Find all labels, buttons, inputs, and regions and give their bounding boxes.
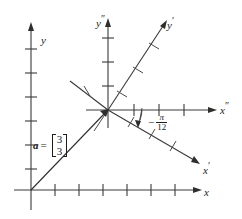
matrix-cell-0: 3 — [57, 134, 63, 146]
axis-label-x-prime: x′ — [203, 161, 210, 176]
vector-a-label: a = 3 3 — [33, 134, 71, 157]
axis-x-prime-arrowhead — [191, 156, 200, 164]
axis-y-dprime-arrowhead — [105, 18, 111, 27]
axis-label-x: x — [204, 183, 209, 198]
vector-a-name: a — [33, 140, 39, 151]
angle-fraction: π 12 — [156, 113, 167, 132]
angle-denominator: 12 — [156, 123, 167, 132]
axis-y-original — [25, 22, 37, 210]
axis-label-x-prime-mark: ′ — [208, 160, 210, 171]
angle-numerator: π — [157, 113, 166, 122]
axis-x-arrowhead — [193, 187, 202, 193]
axis-label-y: y — [41, 31, 46, 46]
axis-x-prime — [70, 81, 200, 164]
axis-y-prime-arrowhead — [160, 20, 167, 29]
axis-label-x-dprime-mark: ″ — [225, 100, 229, 111]
axis-label-y-prime: y′ — [167, 16, 174, 31]
axis-label-y-dprime-mark: ″ — [101, 13, 105, 24]
axis-label-y-prime-mark: ′ — [172, 15, 174, 26]
angle-label: − π 12 — [148, 113, 167, 132]
axis-label-x-double-prime: x″ — [220, 101, 229, 116]
axis-x-prime-negative — [70, 81, 108, 110]
vector-a-matrix: 3 3 — [48, 134, 72, 157]
axis-x-dprime-arrowhead — [208, 107, 217, 113]
axis-label-x-text: x — [204, 186, 209, 198]
matrix-cell-1: 3 — [57, 146, 63, 158]
matrix-bracket-right — [63, 134, 67, 157]
angle-minus-sign: − — [148, 117, 154, 128]
matrix-column: 3 3 — [56, 134, 64, 157]
axis-x-original — [14, 184, 202, 196]
axis-label-y-double-prime: y″ — [96, 14, 105, 29]
vector-a-equals: = — [41, 140, 47, 151]
figure-root: y x y″ x″ y′ x′ a = 3 3 − π 12 — [0, 0, 242, 219]
axis-label-y-text: y — [41, 34, 46, 46]
angle-indicator — [135, 108, 142, 128]
axis-y-arrowhead — [28, 22, 34, 31]
